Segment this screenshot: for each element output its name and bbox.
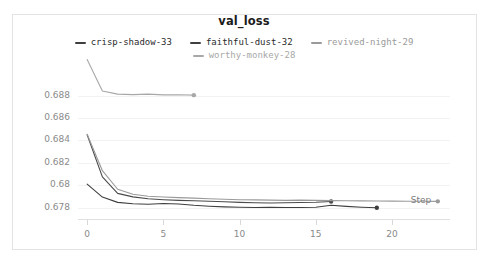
x-axis-tick-label: 15 xyxy=(301,229,331,239)
legend-item-crisp-shadow-33[interactable]: crisp-shadow-33 xyxy=(75,36,172,49)
y-axis-tick-label: 0.684 xyxy=(10,134,70,144)
x-axis-tick-mark xyxy=(316,220,317,225)
x-axis-tick-label: 20 xyxy=(377,229,407,239)
legend-label: faithful-dust-32 xyxy=(206,36,293,49)
y-axis-tick-label: 0.686 xyxy=(10,112,70,122)
legend-label: revived-night-29 xyxy=(327,36,414,49)
legend-swatch-icon xyxy=(193,55,204,57)
legend-row: worthy-monkey-28 xyxy=(0,49,488,62)
legend-swatch-icon xyxy=(190,42,201,44)
x-axis-title: Step xyxy=(411,195,432,205)
legend-item-faithful-dust-32[interactable]: faithful-dust-32 xyxy=(190,36,293,49)
y-axis-tick-label: 0.682 xyxy=(10,157,70,167)
series-line-crisp-shadow-33 xyxy=(87,135,331,203)
legend-swatch-icon xyxy=(311,42,322,44)
legend-swatch-icon xyxy=(75,42,86,44)
x-axis-tick-label: 0 xyxy=(72,229,102,239)
chart-title: val_loss xyxy=(0,14,488,28)
plot-area xyxy=(78,82,450,219)
x-axis-tick-mark xyxy=(87,220,88,225)
series-endpoint-dot-crisp-shadow-33 xyxy=(329,199,333,203)
x-axis-tick-mark xyxy=(240,220,241,225)
x-axis-tick-mark xyxy=(392,220,393,225)
chart-legend: crisp-shadow-33faithful-dust-32revived-n… xyxy=(0,36,488,62)
legend-label: worthy-monkey-28 xyxy=(209,49,296,62)
series-endpoint-dot-faithful-dust-32 xyxy=(375,206,379,210)
y-axis-tick-label: 0.678 xyxy=(10,202,70,212)
x-axis-tick-mark xyxy=(163,220,164,225)
y-axis-tick-label: 0.688 xyxy=(10,90,70,100)
series-lines xyxy=(78,82,450,219)
series-endpoint-dot-worthy-monkey-28 xyxy=(192,93,196,97)
x-axis-tick-label: 10 xyxy=(225,229,255,239)
chart-screenshot: val_loss crisp-shadow-33faithful-dust-32… xyxy=(0,0,488,265)
legend-item-revived-night-29[interactable]: revived-night-29 xyxy=(311,36,414,49)
legend-label: crisp-shadow-33 xyxy=(91,36,172,49)
series-endpoint-dot-revived-night-29 xyxy=(436,199,440,203)
legend-item-worthy-monkey-28[interactable]: worthy-monkey-28 xyxy=(193,49,296,62)
series-line-revived-night-29 xyxy=(87,134,438,201)
x-axis-tick-label: 5 xyxy=(148,229,178,239)
x-axis-line xyxy=(78,219,450,220)
legend-row: crisp-shadow-33faithful-dust-32revived-n… xyxy=(0,36,488,49)
y-axis-tick-label: 0.68 xyxy=(10,179,70,189)
